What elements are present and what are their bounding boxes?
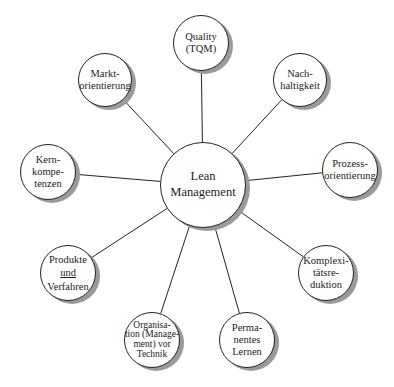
node-prozessorientierung: Prozess- orientierung: [322, 142, 378, 198]
node-label: Komplexi-: [303, 255, 349, 267]
node-label: tätsre-: [313, 267, 339, 279]
connector-line: [232, 100, 282, 154]
lean-management-diagram: Lean Management Quality (TQM) Nach- halt…: [0, 0, 394, 387]
connector-line: [123, 100, 173, 154]
node-permanentes-lernen: Perma- nentes Lernen: [219, 312, 275, 368]
node-label: duktion: [310, 279, 342, 291]
node-label: Verfahren: [47, 280, 88, 293]
node-label: (TQM): [186, 43, 216, 55]
node-label: kompe-: [32, 166, 64, 178]
connector-line: [246, 173, 322, 181]
node-label: orientierung: [79, 80, 130, 92]
node-kernkompetenzen: Kern- kompe- tenzen: [20, 144, 76, 200]
center-label-line-1: Lean: [191, 169, 216, 185]
node-label: Nach-: [287, 68, 313, 80]
center-label-line-2: Management: [170, 185, 235, 201]
node-nachhaltigkeit: Nach- haltigkeit: [273, 53, 327, 107]
center-node-lean-management: Lean Management: [160, 142, 246, 228]
node-label: haltigkeit: [280, 80, 320, 92]
connector-line: [238, 210, 303, 257]
node-label: Perma-: [232, 322, 262, 334]
node-quality: Quality (TQM): [173, 15, 229, 71]
node-organisation-vor-technik: Organisa- tion (Manage- ment) vor Techni…: [124, 312, 180, 368]
node-label: orientierung: [324, 170, 375, 182]
node-marktorientierung: Markt- orientierung: [78, 53, 132, 107]
connector-line: [161, 226, 190, 314]
node-label: Lernen: [232, 346, 262, 358]
node-label: Kern-: [36, 154, 61, 166]
node-label: nentes: [234, 334, 261, 346]
node-produkte-und-verfahren: Produkte und Verfahren: [40, 245, 96, 301]
node-label: tenzen: [34, 178, 61, 190]
node-label: Produkte: [49, 253, 87, 266]
connector-line: [76, 174, 160, 181]
node-label: Quality: [185, 31, 217, 43]
node-label: Prozess-: [332, 158, 368, 170]
node-label: Markt-: [90, 68, 119, 80]
node-label: Technik: [137, 350, 167, 360]
node-komplexitaetsreduktion: Komplexi- tätsre- duktion: [298, 245, 354, 301]
connector-line: [215, 226, 240, 313]
connector-line: [201, 71, 202, 142]
connector-line: [91, 208, 167, 257]
node-label-underlined: und: [60, 266, 76, 279]
